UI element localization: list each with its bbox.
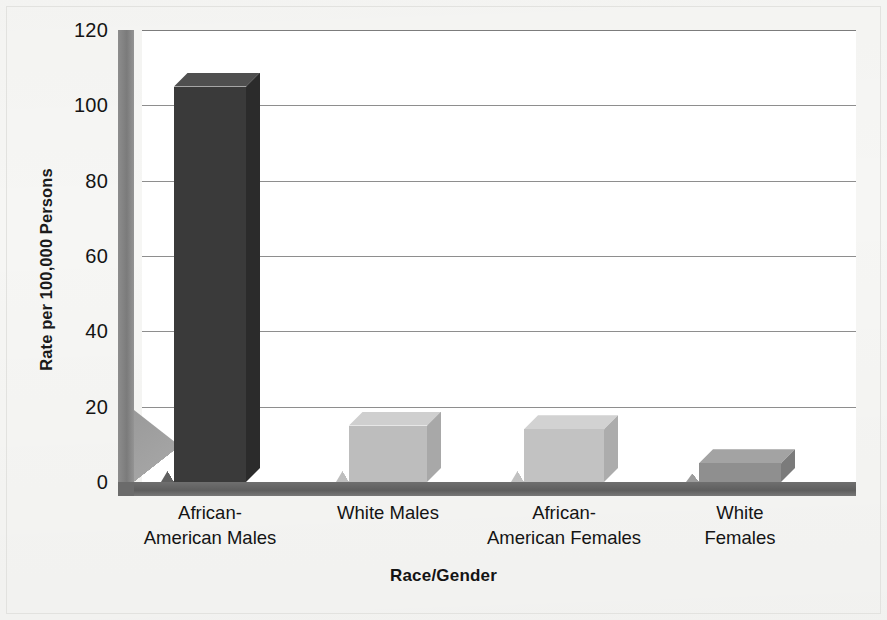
y-axis-tick-label: 0	[46, 471, 108, 494]
y-axis-tick-label: 40	[46, 320, 108, 343]
bar	[174, 73, 246, 483]
bar-front-face	[699, 463, 781, 482]
bar-top-face	[349, 412, 441, 426]
bar-front-face	[174, 87, 246, 483]
x-axis-tick-label: African- American Females	[487, 500, 641, 550]
x-axis-tick-labels: African- American MalesWhite MalesAfrica…	[118, 500, 856, 558]
bar-top-face	[699, 449, 795, 463]
y-axis-tick-label: 80	[46, 169, 108, 192]
y-axis-tick-label: 120	[46, 19, 108, 42]
axis-left-wall	[118, 30, 134, 482]
x-axis-tick-label: White Males	[337, 500, 439, 525]
axis-floor-corner	[118, 482, 134, 496]
gridline	[142, 30, 856, 31]
axis-floor	[118, 482, 856, 496]
bar-top-face	[524, 415, 618, 429]
bar-side-face	[246, 73, 260, 483]
y-axis-tick-label: 20	[46, 395, 108, 418]
bar-front-face	[349, 426, 427, 483]
chart-figure: Rate per 100,000 Persons 020406080100120…	[0, 0, 887, 620]
bar-front-face	[524, 429, 604, 482]
bar	[699, 449, 781, 482]
plot-area	[118, 30, 856, 482]
bar-top-face	[174, 73, 260, 87]
y-axis-tick-label: 60	[46, 245, 108, 268]
x-axis-tick-label: African- American Males	[144, 500, 277, 550]
x-axis-title: Race/Gender	[0, 566, 887, 586]
y-axis-tick-labels: 020406080100120	[46, 0, 108, 620]
x-axis-tick-label: White Females	[682, 500, 798, 550]
bar	[349, 412, 427, 483]
y-axis-tick-label: 100	[46, 94, 108, 117]
bar	[524, 415, 604, 482]
